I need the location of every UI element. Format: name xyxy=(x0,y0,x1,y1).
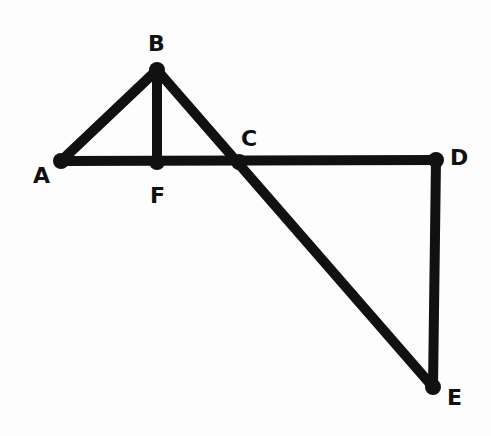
point-label-E: E xyxy=(447,387,462,409)
point-D xyxy=(428,152,444,168)
point-A xyxy=(53,153,69,169)
point-label-B: B xyxy=(148,33,165,55)
segment-AD xyxy=(61,160,436,161)
point-B xyxy=(149,62,165,78)
segment-AB xyxy=(61,70,157,161)
diagram-canvas xyxy=(0,0,491,436)
point-label-C: C xyxy=(241,128,257,150)
segment-BE xyxy=(157,70,433,387)
point-E xyxy=(425,379,441,395)
point-label-F: F xyxy=(150,185,165,207)
geometry-diagram: ABCDEF xyxy=(0,0,491,436)
point-C xyxy=(231,154,247,170)
segment-DE xyxy=(433,160,436,387)
point-F xyxy=(149,154,165,170)
point-label-A: A xyxy=(33,165,50,187)
point-label-D: D xyxy=(450,147,468,169)
